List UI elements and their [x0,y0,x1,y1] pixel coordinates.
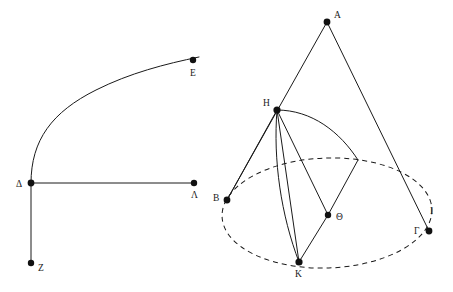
vertex-label-epsilon: E [190,68,196,78]
vertex-label-lambda: Λ [191,190,198,200]
left-figure-group: E Δ Λ Z [16,57,199,273]
vertex-dot-theta [325,212,331,218]
vertex-dot-lambda [191,180,197,186]
vertex-dot-zeta [28,260,34,266]
vertex-dot-gamma [426,228,433,235]
segment-theta-iota [328,160,358,215]
vertex-dot-beta [224,197,231,204]
vertex-label-theta: Θ [336,212,343,222]
vertex-dot-alpha [324,19,331,26]
vertex-dot-kappa [295,258,302,265]
vertex-dot-delta [28,180,35,187]
vertex-label-alpha: A [334,10,341,20]
segment-h-b [227,110,277,200]
vertex-dot-eta [273,106,280,113]
segment-theta-kappa [299,215,328,262]
vertex-label-gamma: Γ [414,226,420,236]
vertex-label-iota: I [430,206,433,216]
vertex-label-kappa: K [295,269,302,279]
vertex-label-zeta: Z [38,263,44,273]
vertex-dot-epsilon [190,57,196,63]
vertex-label-eta: H [263,98,270,108]
curve-delta-epsilon [31,57,199,183]
right-figure-group: A H B Θ Γ K I [213,10,434,279]
geometry-diagram-svg: E Δ Λ Z A H B Θ Γ [0,0,453,292]
vertex-label-beta: B [213,193,219,203]
vertex-label-delta: Δ [16,179,22,189]
segment-a-gamma [327,22,429,231]
geometry-figure-root: E Δ Λ Z A H B Θ Γ [0,0,453,292]
